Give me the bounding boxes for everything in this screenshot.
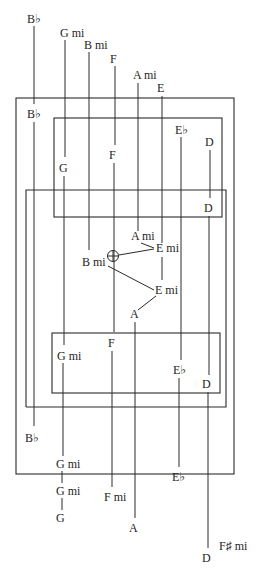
connector-a-mi-to-e-mi (141, 243, 154, 248)
label-lower-e-flat: E♭ (173, 363, 186, 377)
label-center-a: A (130, 307, 139, 321)
label-bottom-g: G (56, 511, 65, 525)
label-bottom-g-mi-1: G mi (56, 457, 81, 471)
label-center-b-mi: B mi (82, 255, 106, 269)
outer-box (16, 98, 234, 474)
label-lower-g-mi: G mi (57, 349, 82, 363)
label-box-g: G (59, 161, 68, 175)
label-lower-d: D (202, 377, 211, 391)
label-box-b-flat: B♭ (27, 107, 41, 121)
connector-circle-to-e-mi (119, 249, 154, 255)
label-bottom-f-mi: F mi (104, 490, 127, 504)
lower-inner-box (52, 333, 220, 393)
label-center-a-mi: A mi (131, 229, 155, 243)
chord-relationship-diagram: B♭ B♭ B♭ G mi G G mi G mi G mi G B mi B … (0, 0, 260, 580)
label-bottom-f-sharp-mi: F♯ mi (219, 539, 248, 553)
label-bottom-e-flat: E♭ (172, 470, 185, 484)
label-box-e-flat: E♭ (175, 123, 188, 137)
label-top-g-mi: G mi (60, 26, 85, 40)
label-lower-b-flat: B♭ (25, 431, 39, 445)
circle-crosshair-icon (107, 250, 119, 262)
label-top-f: F (110, 52, 117, 66)
label-box-d2: D (204, 201, 213, 215)
label-bottom-g-mi-2: G mi (56, 484, 81, 498)
label-box-f: F (109, 148, 116, 162)
label-top-a-mi: A mi (133, 68, 157, 82)
connector-b-mi-to-e-mi (108, 266, 154, 290)
label-lower-f: F (108, 336, 115, 350)
label-top-b-flat: B♭ (27, 12, 41, 26)
label-bottom-d: D (202, 551, 211, 565)
middle-box (26, 190, 226, 407)
label-top-b-mi: B mi (84, 38, 108, 52)
label-box-d: D (205, 135, 214, 149)
connector-e-mi-to-a (138, 296, 156, 310)
label-bottom-a: A (129, 521, 138, 535)
label-top-e: E (157, 81, 164, 95)
label-center-e-mi-2: E mi (155, 283, 179, 297)
label-center-e-mi-1: E mi (156, 241, 180, 255)
